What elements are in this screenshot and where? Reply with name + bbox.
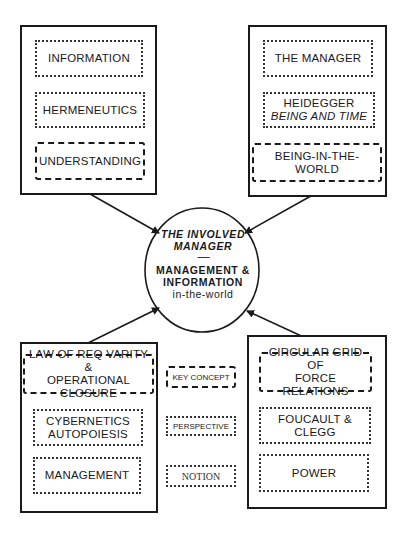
- perspective-hermeneutics: HERMENEUTICS: [35, 92, 145, 128]
- key-concept-label-line1: LAW OF REQ VARITY &: [25, 348, 152, 374]
- perspective-label: HERMENEUTICS: [43, 104, 137, 117]
- key-concept-law-of-requisite-variety: LAW OF REQ VARITY & OPERATIONAL CLOSURE: [23, 354, 154, 394]
- key-concept-label: UNDERSTANDING: [39, 155, 141, 168]
- perspective-label-line1: HEIDEGGER: [284, 97, 355, 110]
- center-separator: -------: [145, 253, 261, 261]
- legend-notion: NOTION: [166, 465, 236, 487]
- legend-key-concept-label: KEY CONCEPT: [172, 371, 229, 384]
- notion-label: INFORMATION: [48, 52, 130, 65]
- legend-perspective-label: PERSPECTIVE: [173, 420, 229, 433]
- key-concept-label: BEING-IN-THE-WORLD: [254, 150, 380, 176]
- notion-power: POWER: [259, 454, 369, 492]
- notion-label: THE MANAGER: [275, 52, 362, 65]
- legend-perspective: PERSPECTIVE: [166, 416, 236, 436]
- notion-the-manager: THE MANAGER: [263, 40, 373, 77]
- legend-key-concept: KEY CONCEPT: [166, 366, 236, 388]
- notion-management: MANAGEMENT: [33, 457, 141, 494]
- perspective-foucault-clegg: FOUCAULT & CLEGG: [259, 407, 371, 444]
- arrow-bottom-left: [86, 308, 159, 344]
- key-concept-circular-grid: CIRCULAR GRID OF FORCE RELATIONS: [259, 352, 372, 392]
- perspective-label-line2: BEING AND TIME: [271, 110, 367, 123]
- center-label: THE INVOLVED MANAGER ------- MANAGEMENT …: [145, 228, 261, 300]
- perspective-label-line2: CLEGG: [294, 426, 335, 439]
- center-line2: INFORMATION: [145, 276, 261, 288]
- notion-label: MANAGEMENT: [45, 469, 129, 482]
- arrow-top-left: [83, 190, 159, 233]
- key-concept-being-in-the-world: BEING-IN-THE-WORLD: [252, 143, 382, 182]
- center-title-line1: THE INVOLVED: [145, 228, 261, 240]
- center-line1: MANAGEMENT &: [145, 264, 261, 276]
- key-concept-label-line2: OPERATIONAL CLOSURE: [25, 374, 152, 400]
- perspective-label-line2: AUTOPOIESIS: [48, 428, 128, 441]
- arrow-top-right: [245, 192, 318, 233]
- perspective-heidegger: HEIDEGGER BEING AND TIME: [263, 92, 375, 128]
- perspective-label-line1: CYBERNETICS: [46, 415, 130, 428]
- center-line3: in-the-world: [145, 288, 261, 300]
- notion-label: POWER: [292, 467, 336, 480]
- perspective-cybernetics: CYBERNETICS AUTOPOIESIS: [33, 409, 143, 446]
- perspective-label-line1: FOUCAULT &: [278, 413, 352, 426]
- key-concept-understanding: UNDERSTANDING: [35, 142, 145, 180]
- key-concept-label-line2: FORCE RELATIONS: [261, 372, 370, 398]
- key-concept-label-line1: CIRCULAR GRID OF: [261, 346, 370, 372]
- legend-notion-label: NOTION: [182, 470, 220, 483]
- notion-information: INFORMATION: [35, 40, 143, 77]
- center-title-line2: MANAGER: [145, 240, 261, 252]
